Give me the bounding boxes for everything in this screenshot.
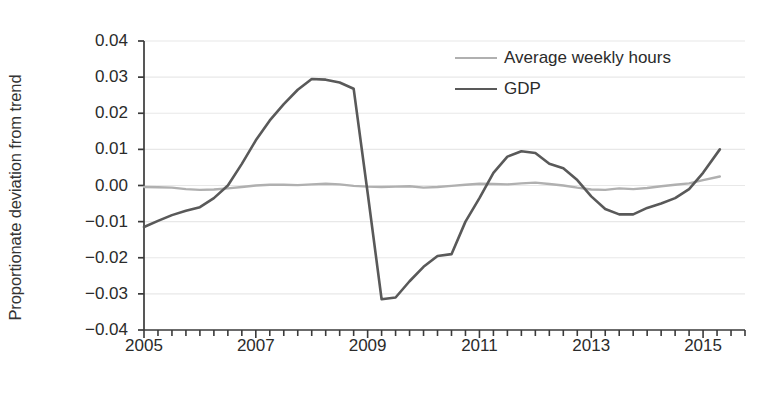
x-tick-label: 2015	[684, 336, 722, 356]
x-tick-label: 2011	[461, 336, 498, 356]
data-series	[144, 79, 720, 299]
legend-item-gdp: GDP	[455, 73, 745, 104]
legend-item-average-weekly-hours: Average weekly hours	[455, 42, 745, 73]
x-tick-label: 2013	[572, 336, 610, 356]
x-tick-label: 2007	[237, 336, 275, 356]
legend-swatch-gdp	[455, 88, 497, 90]
x-tick-label: 2009	[349, 336, 387, 356]
legend-label-gdp: GDP	[504, 79, 541, 99]
chart-figure: Proportionate deviation from trend 0.040…	[0, 0, 762, 395]
x-axis-tick-labels: 200520072009201120132015	[0, 336, 762, 362]
legend-swatch-average-weekly-hours	[455, 57, 497, 59]
legend-label-average-weekly-hours: Average weekly hours	[504, 48, 671, 68]
chart-legend: Average weekly hours GDP	[455, 42, 745, 104]
x-tick-label: 2005	[125, 336, 163, 356]
